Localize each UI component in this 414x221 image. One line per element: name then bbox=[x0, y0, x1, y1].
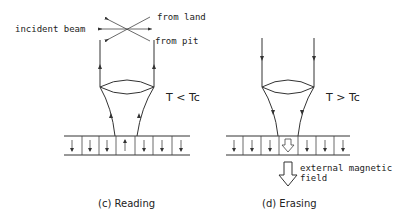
domain-up-arrow-icon bbox=[123, 139, 127, 151]
external-field-label-2: field bbox=[300, 173, 327, 183]
hollow-down-arrow-icon bbox=[282, 139, 294, 152]
domain-down-arrow-icon bbox=[105, 140, 109, 152]
from-pit-label: from pit bbox=[155, 36, 198, 46]
domain-down-arrow-icon bbox=[232, 140, 236, 152]
incident-beam-label: incident beam bbox=[15, 24, 85, 34]
domain-down-arrow-icon bbox=[88, 140, 92, 152]
temperature-condition: T < Tc bbox=[165, 91, 200, 104]
from-land-label: from land bbox=[157, 12, 206, 22]
domain-down-arrow-icon bbox=[70, 140, 74, 152]
domain-down-arrow-icon bbox=[142, 140, 146, 152]
beam-crossing bbox=[100, 17, 150, 41]
recording-medium bbox=[226, 136, 350, 155]
domain-down-arrow-icon bbox=[179, 140, 183, 152]
reading-panel: incident beam from land from pit T < Tc bbox=[15, 12, 206, 209]
objective-lens-icon bbox=[262, 80, 314, 94]
reading-caption: (c) Reading bbox=[98, 198, 155, 209]
external-field-arrow-icon bbox=[279, 162, 297, 186]
domain-down-arrow-icon bbox=[305, 140, 309, 152]
domain-down-arrow-icon bbox=[323, 140, 327, 152]
erasing-panel: T > Tc external magnetic field bbox=[226, 38, 392, 209]
objective-lens-icon bbox=[100, 80, 154, 94]
recording-medium bbox=[64, 136, 190, 155]
external-field-label: external magnetic bbox=[300, 163, 392, 173]
domain-down-arrow-icon bbox=[250, 140, 254, 152]
domain-down-arrow-icon bbox=[160, 140, 164, 152]
domain-down-arrow-icon bbox=[341, 140, 345, 152]
domain-down-arrow-icon bbox=[268, 140, 272, 152]
erasing-caption: (d) Erasing bbox=[262, 198, 317, 209]
magneto-optical-diagram: incident beam from land from pit T < Tc bbox=[0, 0, 414, 221]
temperature-condition: T > Tc bbox=[325, 91, 360, 104]
